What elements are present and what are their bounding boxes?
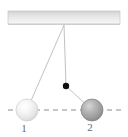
diagram-canvas: 1 2 — [0, 0, 128, 137]
ball-2 — [81, 99, 103, 121]
ball-2-group: 2 — [81, 99, 103, 133]
vertical-string — [64, 25, 66, 86]
ball-1-label: 1 — [21, 122, 27, 134]
ceiling-support — [8, 11, 120, 24]
pendulum-strings — [27, 25, 92, 110]
pendulum-diagram: 1 2 — [0, 0, 128, 137]
bob-marker-dot — [63, 83, 69, 89]
ball-1 — [16, 99, 38, 121]
ball-1-group: 1 — [16, 99, 38, 134]
string-to-ball-1 — [27, 25, 64, 110]
support-bar — [8, 11, 120, 24]
ball-2-label: 2 — [87, 121, 93, 133]
